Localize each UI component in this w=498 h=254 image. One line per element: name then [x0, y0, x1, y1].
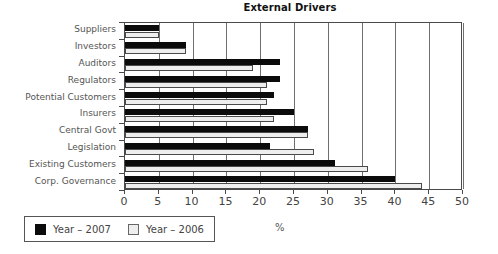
bar	[125, 99, 267, 105]
bar	[125, 149, 314, 155]
plot-area	[124, 22, 462, 190]
x-tick-mark	[124, 190, 125, 194]
bar	[125, 116, 274, 122]
bar-group	[125, 73, 461, 90]
x-tick-label: 20	[252, 195, 266, 208]
y-tick-label: Corp. Governance	[35, 176, 116, 186]
bar	[125, 160, 335, 166]
white-square-swatch	[128, 224, 139, 235]
legend-label: Year – 2007	[53, 224, 111, 235]
bar	[125, 143, 270, 149]
y-tick-label: Existing Customers	[29, 159, 116, 169]
y-tick-label: Suppliers	[74, 24, 116, 34]
bar-group	[125, 40, 461, 57]
x-tick-label: 15	[218, 195, 232, 208]
bar	[125, 48, 186, 54]
bar-group	[125, 141, 461, 158]
gridline-50	[463, 23, 464, 189]
bar-group	[125, 124, 461, 141]
x-tick-mark	[394, 190, 395, 194]
x-tick-label: 40	[387, 195, 401, 208]
y-axis-category-labels: SuppliersInvestorsAuditorsRegulatorsPote…	[0, 22, 120, 190]
x-tick-label: 50	[455, 195, 469, 208]
y-tick-label: Regulators	[68, 75, 116, 85]
bar	[125, 76, 280, 82]
x-tick-label: 10	[185, 195, 199, 208]
bar	[125, 42, 186, 48]
y-tick-label: Central Govt	[59, 125, 116, 135]
x-tick-label: 0	[121, 195, 128, 208]
bar-group	[125, 90, 461, 107]
bar-group	[125, 57, 461, 74]
x-axis-title: %	[275, 222, 285, 233]
x-tick-mark	[192, 190, 193, 194]
bar-group	[125, 157, 461, 174]
bars-layer	[125, 23, 461, 189]
x-tick-mark	[361, 190, 362, 194]
bar	[125, 92, 274, 98]
bar	[125, 82, 267, 88]
bar	[125, 176, 395, 182]
legend-entry: Year – 2006	[128, 224, 204, 235]
y-tick-label: Potential Customers	[25, 92, 116, 102]
x-tick-label: 30	[320, 195, 334, 208]
bar	[125, 132, 308, 138]
x-tick-mark	[428, 190, 429, 194]
legend-label: Year – 2006	[146, 224, 204, 235]
chart-figure: External Drivers SuppliersInvestorsAudit…	[0, 0, 498, 254]
bar-group	[125, 107, 461, 124]
bar	[125, 59, 280, 65]
chart-title: External Drivers	[124, 2, 456, 13]
x-tick-label: 35	[354, 195, 368, 208]
x-tick-mark	[225, 190, 226, 194]
bar	[125, 65, 253, 71]
x-tick-mark	[158, 190, 159, 194]
bar	[125, 25, 159, 31]
x-tick-label: 45	[421, 195, 435, 208]
black-square-swatch	[35, 224, 46, 235]
bar-group	[125, 23, 461, 40]
y-tick-label: Legislation	[67, 142, 116, 152]
y-tick-label: Auditors	[79, 58, 117, 68]
x-tick-mark	[462, 190, 463, 194]
bar	[125, 109, 294, 115]
y-tick-label: Investors	[75, 41, 116, 51]
x-tick-mark	[327, 190, 328, 194]
bar	[125, 32, 159, 38]
x-axis: 05101520253035404550	[124, 190, 462, 212]
x-tick-mark	[293, 190, 294, 194]
chart-legend: Year – 2007Year – 2006	[24, 216, 215, 242]
y-tick-label: Insurers	[80, 108, 116, 118]
x-tick-label: 25	[286, 195, 300, 208]
x-tick-mark	[259, 190, 260, 194]
bar	[125, 126, 308, 132]
bar-group	[125, 174, 461, 191]
bar	[125, 166, 368, 172]
x-tick-label: 5	[154, 195, 161, 208]
legend-entry: Year – 2007	[35, 224, 111, 235]
bar	[125, 183, 422, 189]
